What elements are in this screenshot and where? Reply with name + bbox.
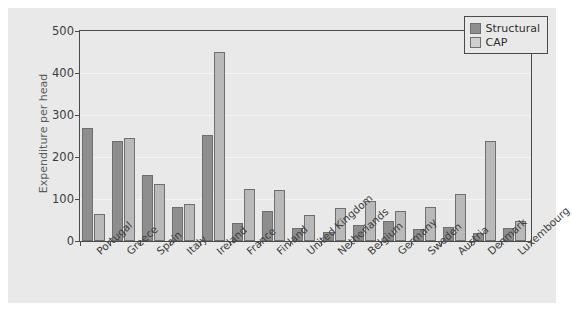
y-tick-label: 200	[52, 150, 74, 164]
bar-cap	[485, 141, 496, 241]
x-tick-mark	[110, 241, 111, 246]
bar-group	[290, 31, 320, 241]
y-tick-label: 500	[52, 24, 74, 38]
bar-group	[260, 31, 290, 241]
x-tick-mark	[140, 241, 141, 246]
bar-group	[140, 31, 170, 241]
bar-series-container	[80, 31, 531, 241]
x-tick-mark	[321, 241, 322, 246]
x-tick-mark	[351, 241, 352, 246]
y-axis-title: Expenditure per head	[37, 44, 50, 224]
x-tick-mark	[381, 241, 382, 246]
bar-group	[80, 31, 110, 241]
plot-area: 0100200300400500 Expenditure per head Po…	[79, 30, 532, 242]
bar-group	[110, 31, 140, 241]
y-tick-label: 100	[52, 192, 74, 206]
legend-label-structural: Structural	[486, 22, 540, 35]
bar-group	[501, 31, 531, 241]
x-tick-mark	[80, 241, 81, 246]
legend-item-cap: CAP	[470, 35, 540, 49]
bar-cap	[214, 52, 225, 241]
bar-structural	[202, 135, 213, 241]
x-tick-mark	[531, 241, 532, 246]
chart-legend: Structural CAP	[464, 16, 548, 54]
x-tick-mark	[471, 241, 472, 246]
legend-label-cap: CAP	[486, 36, 508, 49]
y-tick-label: 300	[52, 108, 74, 122]
bar-cap	[94, 214, 105, 241]
legend-swatch-cap	[470, 37, 481, 48]
chart-figure: 0100200300400500 Expenditure per head Po…	[8, 8, 556, 303]
y-tick-label: 0	[67, 234, 74, 248]
x-tick-mark	[200, 241, 201, 246]
x-tick-mark	[170, 241, 171, 246]
legend-swatch-structural	[470, 23, 481, 34]
bar-structural	[82, 128, 93, 241]
bar-group	[471, 31, 501, 241]
x-tick-mark	[411, 241, 412, 246]
x-tick-mark	[501, 241, 502, 246]
x-tick-mark	[441, 241, 442, 246]
x-tick-mark	[290, 241, 291, 246]
bar-group	[170, 31, 200, 241]
bar-group	[441, 31, 471, 241]
x-tick-mark	[230, 241, 231, 246]
bar-group	[200, 31, 230, 241]
bar-cap	[184, 204, 195, 241]
bar-group	[230, 31, 260, 241]
legend-item-structural: Structural	[470, 21, 540, 35]
x-tick-mark	[260, 241, 261, 246]
bar-group	[411, 31, 441, 241]
y-tick-label: 400	[52, 66, 74, 80]
